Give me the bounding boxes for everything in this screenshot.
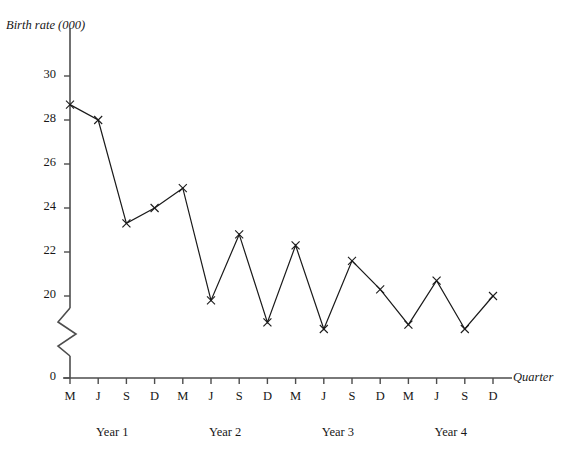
data-point-marker <box>263 318 271 326</box>
data-point-marker <box>404 321 412 329</box>
y-axis-break-zigzag <box>58 308 76 356</box>
data-point-marker <box>151 204 159 212</box>
data-point-marker <box>433 277 441 285</box>
data-point-marker <box>207 296 215 304</box>
data-point-marker <box>320 325 328 333</box>
x-axis-tick-label: M <box>173 389 193 404</box>
data-point-marker <box>489 292 497 300</box>
y-axis-tick-label: 26 <box>22 155 56 170</box>
data-point-marker <box>179 184 187 192</box>
data-point-marker <box>461 325 469 333</box>
y-axis-tick-label: 24 <box>22 199 56 214</box>
x-axis-tick-label: M <box>60 389 80 404</box>
y-axis-tick-label: 30 <box>22 67 56 82</box>
data-markers <box>66 101 497 333</box>
x-axis-tick-label: S <box>455 389 475 404</box>
y-axis-tick-label: 28 <box>22 111 56 126</box>
x-axis-tick-label: J <box>314 389 334 404</box>
chart-container: Birth rate (000) Quarter 3028262422200 M… <box>0 0 567 455</box>
data-point-marker <box>348 257 356 265</box>
x-axis-tick-label: M <box>398 389 418 404</box>
x-axis-tick-label: M <box>286 389 306 404</box>
data-point-marker <box>94 116 102 124</box>
year-group-label: Year 3 <box>308 425 368 440</box>
plot-area <box>0 0 567 455</box>
y-axis-ticks <box>64 76 70 378</box>
year-group-label: Year 1 <box>82 425 142 440</box>
x-axis-tick-label: J <box>201 389 221 404</box>
x-axis-ticks <box>70 378 493 384</box>
data-line <box>70 105 493 329</box>
x-axis-tick-label: D <box>483 389 503 404</box>
x-axis-tick-label: J <box>427 389 447 404</box>
data-point-marker <box>292 241 300 249</box>
y-axis-tick-label: 22 <box>22 243 56 258</box>
data-point-marker <box>376 285 384 293</box>
x-axis-tick-label: S <box>342 389 362 404</box>
x-axis-tick-label: S <box>116 389 136 404</box>
data-point-marker <box>235 230 243 238</box>
x-axis-tick-label: D <box>145 389 165 404</box>
data-point-marker <box>122 219 130 227</box>
y-axis-tick-label: 20 <box>22 287 56 302</box>
year-group-label: Year 2 <box>195 425 255 440</box>
year-group-label: Year 4 <box>421 425 481 440</box>
y-axis-tick-label: 0 <box>22 369 56 384</box>
x-axis-tick-label: D <box>257 389 277 404</box>
x-axis-tick-label: S <box>229 389 249 404</box>
x-axis-tick-label: J <box>88 389 108 404</box>
x-axis-tick-label: D <box>370 389 390 404</box>
